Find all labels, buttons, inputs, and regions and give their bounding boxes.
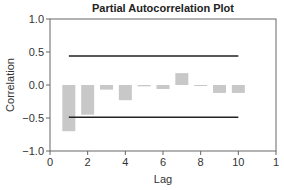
x-axis: 02468101 — [47, 151, 279, 168]
bar-lag-8 — [194, 85, 207, 86]
bar-lag-2 — [81, 85, 94, 115]
y-tick-label: 0.0 — [29, 79, 44, 91]
y-tick-label: 1.0 — [29, 13, 44, 25]
x-tick-label: 6 — [160, 156, 166, 168]
x-tick-label: 0 — [47, 156, 53, 168]
bar-lag-3 — [100, 85, 113, 90]
x-axis-label: Lag — [154, 173, 172, 185]
bar-lag-7 — [175, 73, 188, 85]
bar-lag-4 — [119, 85, 132, 100]
y-tick-label: 0.5 — [29, 46, 44, 58]
x-tick-label: 8 — [198, 156, 204, 168]
bar-lag-6 — [157, 85, 170, 89]
y-axis: 1.00.50.0−0.5−1.0 — [22, 13, 50, 157]
bar-lag-9 — [213, 85, 226, 93]
y-tick-label: −1.0 — [22, 145, 44, 157]
confidence-bounds — [69, 56, 239, 117]
y-axis-label: Correlation — [4, 58, 16, 112]
bar-lag-5 — [138, 85, 151, 86]
bars-group — [62, 73, 245, 131]
x-tick-label: 10 — [232, 156, 244, 168]
bar-lag-10 — [232, 85, 245, 93]
bar-lag-1 — [62, 85, 75, 131]
pacf-chart: 1.00.50.0−0.5−1.0 02468101 Lag Correlati… — [0, 0, 284, 190]
y-tick-label: −0.5 — [22, 112, 44, 124]
x-tick-label: 2 — [85, 156, 91, 168]
x-tick-label: 4 — [122, 156, 128, 168]
x-tick-label: 1 — [273, 156, 279, 168]
